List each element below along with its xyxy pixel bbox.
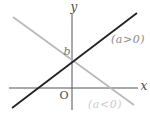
x-axis-label: x: [141, 79, 148, 93]
linear-function-plot: y x O b (a<0) (a>0): [0, 0, 150, 119]
linear-function-figure: y x O b (a<0) (a>0): [0, 0, 150, 119]
line-a-negative-label: (a<0): [88, 98, 122, 111]
y-axis-label: y: [70, 0, 78, 14]
y-intercept-label: b: [63, 45, 70, 58]
line-a-positive-label: (a>0): [111, 33, 145, 46]
origin-label: O: [59, 89, 68, 102]
